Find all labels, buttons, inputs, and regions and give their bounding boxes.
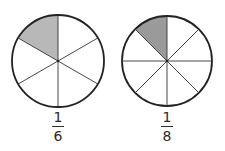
center-dot [166,60,169,63]
denominator: 8 [152,129,182,143]
denominator: 6 [43,129,73,143]
fraction-bar [52,126,64,127]
fraction-label-eighth: 1 8 [152,110,182,143]
fraction-label-sixth: 1 6 [43,110,73,143]
circle-eighths [109,0,225,115]
shaded-sector-sixth [18,15,58,61]
shaded-sector-eighth [135,16,167,61]
numerator: 1 [43,110,73,124]
circle-sixths [0,0,116,115]
fraction-bar [161,126,173,127]
numerator: 1 [152,110,182,124]
center-dot [57,60,60,63]
